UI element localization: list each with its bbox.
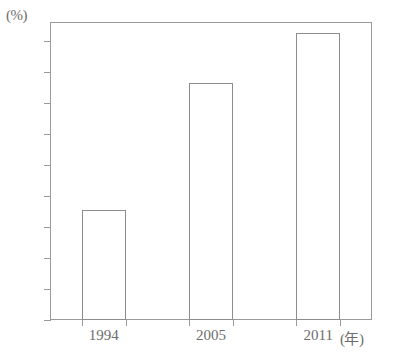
y-axis-unit-label: (%) bbox=[6, 7, 27, 24]
chart-canvas: (%) 051015202530354045 199420052011 (年) bbox=[0, 0, 394, 354]
y-axis-tick-mark bbox=[44, 227, 51, 228]
bar bbox=[296, 33, 340, 320]
y-axis-tick-mark bbox=[44, 258, 51, 259]
y-axis-tick-mark bbox=[44, 72, 51, 73]
y-axis-tick-mark bbox=[44, 196, 51, 197]
y-axis-tick-mark bbox=[44, 103, 51, 104]
y-axis-tick-mark bbox=[44, 41, 51, 42]
bar bbox=[189, 83, 233, 320]
y-axis-tick-mark bbox=[44, 320, 51, 321]
y-axis-tick-mark bbox=[44, 165, 51, 166]
x-axis-tick-mark bbox=[340, 320, 341, 326]
x-axis-tick-mark bbox=[82, 320, 83, 326]
bar bbox=[82, 210, 126, 320]
y-axis-tick-mark bbox=[44, 134, 51, 135]
x-axis-tick-mark bbox=[296, 320, 297, 326]
x-axis-unit-label: (年) bbox=[340, 327, 364, 348]
x-axis-tick-label: 1994 bbox=[64, 327, 144, 344]
y-axis-tick-mark bbox=[44, 289, 51, 290]
x-axis-tick-mark bbox=[233, 320, 234, 326]
x-axis-tick-label: 2005 bbox=[171, 327, 251, 344]
x-axis-tick-mark bbox=[126, 320, 127, 326]
x-axis-tick-mark bbox=[189, 320, 190, 326]
